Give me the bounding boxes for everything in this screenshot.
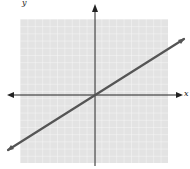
x-axis-right-arrow-icon xyxy=(176,92,183,98)
x-axis-label: x xyxy=(184,89,189,98)
y-axis-up-arrow-icon xyxy=(92,4,98,12)
grid-area xyxy=(20,19,168,163)
coordinate-plane xyxy=(0,0,190,169)
y-axis-label: y xyxy=(22,0,27,7)
x-axis-left-arrow-icon xyxy=(7,92,14,98)
